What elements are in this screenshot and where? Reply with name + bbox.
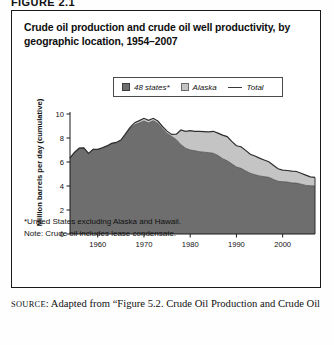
- source-prefix: SOURCE: [11, 300, 46, 309]
- svg-text:2000: 2000: [274, 240, 291, 249]
- svg-text:1970: 1970: [136, 240, 153, 249]
- figure-number: FIGURE 2.1: [11, 0, 75, 8]
- svg-text:4: 4: [60, 182, 64, 191]
- legend-swatch-total-line-icon: [228, 87, 242, 88]
- source-text: : Adapted from “Figure 5.2. Crude Oil Pr…: [46, 298, 320, 309]
- legend-label-alaska: Alaska: [193, 83, 217, 92]
- figure-page: FIGURE 2.1 Crude oil production and crud…: [0, 0, 334, 345]
- svg-text:1990: 1990: [228, 240, 245, 249]
- figure-footnote: *United States excluding Alaska and Hawa…: [24, 216, 181, 228]
- figure-source: SOURCE: Adapted from “Figure 5.2. Crude …: [11, 297, 325, 312]
- svg-text:1960: 1960: [89, 240, 106, 249]
- figure-box: Crude oil production and crude oil well …: [11, 10, 321, 288]
- legend-label-48-states: 48 states*: [134, 83, 170, 92]
- svg-text:1980: 1980: [182, 240, 199, 249]
- svg-text:2: 2: [60, 206, 64, 215]
- legend-item-48-states: 48 states*: [122, 83, 170, 92]
- legend-swatch-alaska-icon: [181, 83, 189, 91]
- legend-label-total: Total: [247, 83, 264, 92]
- legend-item-alaska: Alaska: [181, 83, 217, 92]
- svg-text:6: 6: [60, 158, 64, 167]
- legend-swatch-48-states-icon: [122, 83, 130, 91]
- figure-note: Note: Crude oil includes lease condensat…: [24, 228, 181, 240]
- svg-text:8: 8: [60, 134, 64, 143]
- figure-title: Crude oil production and crude oil well …: [24, 21, 292, 49]
- svg-text:10: 10: [56, 110, 64, 119]
- chart-legend: 48 states* Alaska Total: [113, 77, 283, 97]
- legend-item-total: Total: [228, 83, 264, 92]
- figure-notes: *United States excluding Alaska and Hawa…: [24, 216, 181, 239]
